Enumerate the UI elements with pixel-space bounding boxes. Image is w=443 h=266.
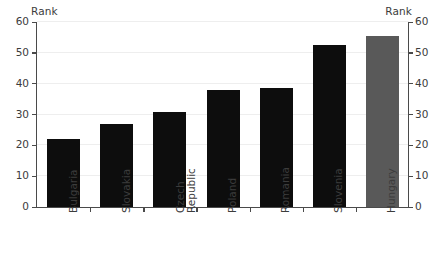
y-axis-tick-left	[32, 207, 36, 208]
y-axis-tick-right	[409, 52, 413, 53]
y-axis-label-right: 20	[415, 139, 428, 150]
y-axis-label-left: 30	[16, 109, 29, 120]
y-axis-label-right: 30	[415, 109, 428, 120]
y-axis-tick-left	[32, 114, 36, 115]
x-axis-baseline	[36, 207, 409, 208]
x-axis-category-label: Romania	[280, 167, 291, 213]
x-axis-category-label: Slovenia	[333, 168, 344, 213]
gridline	[37, 21, 409, 22]
gridline	[37, 83, 409, 84]
y-axis-tick-left	[32, 145, 36, 146]
x-axis-tick	[250, 208, 251, 212]
y-axis-label-left: 40	[16, 78, 29, 89]
y-axis-label-right: 40	[415, 78, 428, 89]
y-axis-title-left: Rank	[31, 5, 58, 17]
y-axis-tick-right	[409, 145, 413, 146]
y-axis-label-right: 60	[415, 16, 428, 27]
y-axis-tick-left	[32, 83, 36, 84]
plot-area	[37, 22, 409, 207]
x-axis-category-label: Poland	[227, 178, 238, 213]
x-axis-category-label: Bulgaria	[68, 169, 79, 213]
y-axis-label-left: 60	[16, 16, 29, 27]
y-axis-tick-right	[409, 22, 413, 23]
y-axis-tick-right	[409, 114, 413, 115]
bar-chart: Rank Rank 00101020203030404050506060Bulg…	[0, 0, 443, 266]
y-axis-label-left: 50	[16, 47, 29, 58]
y-axis-tick-left	[32, 52, 36, 53]
y-axis-label-left: 20	[16, 139, 29, 150]
y-axis-tick-right	[409, 83, 413, 84]
y-axis-label-left: 10	[16, 170, 29, 181]
x-axis-tick	[196, 208, 197, 212]
x-axis-tick	[356, 208, 357, 212]
y-axis-tick-right	[409, 176, 413, 177]
y-axis-label-right: 50	[415, 47, 428, 58]
y-axis-tick-left	[32, 22, 36, 23]
x-axis-category-label: Slovakia	[121, 169, 132, 213]
gridline	[37, 52, 409, 53]
y-axis-title-right: Rank	[385, 5, 412, 17]
y-axis-label-left: 0	[22, 201, 29, 212]
y-axis-tick-left	[32, 176, 36, 177]
x-axis-tick	[143, 208, 144, 212]
x-axis-tick	[90, 208, 91, 212]
y-axis-tick-right	[409, 207, 413, 208]
x-axis-category-label: Czech Republic	[175, 168, 197, 213]
y-axis-label-right: 0	[415, 201, 422, 212]
y-axis-left-spine	[36, 22, 37, 208]
x-axis-category-label: Hungary	[386, 168, 397, 213]
y-axis-label-right: 10	[415, 170, 428, 181]
x-axis-tick	[303, 208, 304, 212]
